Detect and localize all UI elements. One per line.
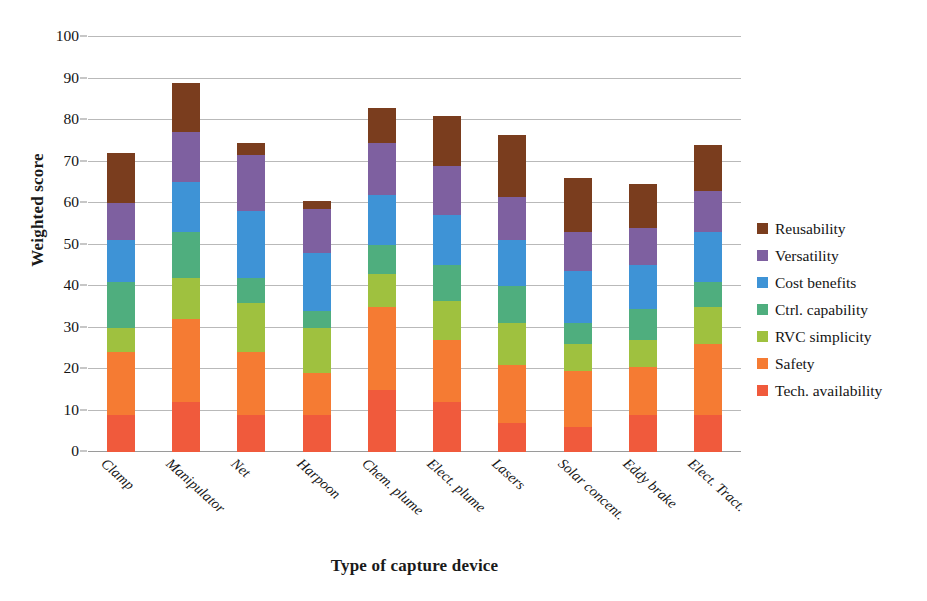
legend-item[interactable]: Reusability bbox=[757, 215, 922, 242]
bar-segment bbox=[433, 301, 461, 340]
bar-segment bbox=[303, 253, 331, 311]
x-axis-tick-label: Elect. plume bbox=[424, 455, 489, 516]
y-axis-tick-mark bbox=[80, 368, 87, 369]
plot-area: 0102030405060708090100 bbox=[88, 37, 741, 452]
bar-segment bbox=[498, 365, 526, 423]
bar-segment bbox=[694, 307, 722, 344]
bar-segment bbox=[107, 240, 135, 282]
bar-segment bbox=[564, 232, 592, 271]
bar-segment bbox=[107, 415, 135, 452]
bar-segment bbox=[237, 211, 265, 277]
bar-segment bbox=[172, 132, 200, 182]
bar-segment bbox=[498, 240, 526, 286]
bar-segment bbox=[237, 415, 265, 452]
y-axis-tick-label: 50 bbox=[64, 235, 80, 253]
bar-segment bbox=[564, 371, 592, 427]
y-axis-tick-mark bbox=[80, 202, 87, 203]
y-axis-tick-mark bbox=[80, 243, 87, 244]
y-axis-tick-label: 80 bbox=[64, 110, 80, 128]
bar-segment bbox=[629, 184, 657, 228]
bar-segment bbox=[498, 135, 526, 197]
legend-item[interactable]: Cost benefits bbox=[757, 269, 922, 296]
legend-label: RVC simplicity bbox=[775, 328, 872, 346]
legend-label: Safety bbox=[775, 355, 815, 373]
bar-segment bbox=[368, 390, 396, 452]
bar-segment bbox=[172, 232, 200, 278]
bar-segment bbox=[564, 427, 592, 452]
bar-segment bbox=[303, 201, 331, 209]
bars-layer bbox=[88, 37, 741, 452]
legend-label: Versatility bbox=[775, 247, 839, 265]
bar-segment bbox=[629, 367, 657, 415]
y-axis-tick-label: 0 bbox=[71, 442, 79, 460]
bar-stack bbox=[433, 116, 461, 452]
bar-segment bbox=[303, 311, 331, 328]
bar-segment bbox=[433, 265, 461, 300]
legend-swatch-icon bbox=[757, 385, 768, 396]
bar-stack bbox=[368, 108, 396, 452]
bar-segment bbox=[237, 352, 265, 414]
bar-segment bbox=[564, 271, 592, 323]
legend-swatch-icon bbox=[757, 277, 768, 288]
bar-segment bbox=[694, 232, 722, 282]
legend-item[interactable]: Tech. availability bbox=[757, 377, 922, 404]
bar-stack bbox=[564, 178, 592, 452]
legend-item[interactable]: Ctrl. capability bbox=[757, 296, 922, 323]
bar-segment bbox=[368, 245, 396, 274]
y-axis-tick-mark bbox=[80, 77, 87, 78]
x-axis-tick-label: Net bbox=[228, 455, 254, 481]
bar-segment bbox=[368, 307, 396, 390]
bar-segment bbox=[107, 203, 135, 240]
legend-label: Tech. availability bbox=[775, 382, 882, 400]
bar-stack bbox=[629, 184, 657, 452]
bar-segment bbox=[694, 191, 722, 233]
bar-segment bbox=[629, 265, 657, 309]
y-axis-tick-mark bbox=[80, 160, 87, 161]
bar-segment bbox=[303, 328, 331, 374]
x-axis-title: Type of capture device bbox=[88, 556, 741, 576]
bar-segment bbox=[498, 286, 526, 323]
bar-segment bbox=[629, 415, 657, 452]
bar-segment bbox=[368, 195, 396, 245]
x-axis-tick-labels: ClampManipulatorNetHarpoonChem. plumeEle… bbox=[88, 455, 741, 550]
y-axis-tick-label: 10 bbox=[64, 401, 80, 419]
bar-segment bbox=[237, 278, 265, 303]
bar-segment bbox=[433, 116, 461, 166]
legend-label: Reusability bbox=[775, 220, 846, 238]
bar-segment bbox=[303, 373, 331, 415]
y-axis-tick-label: 20 bbox=[64, 359, 80, 377]
legend-label: Ctrl. capability bbox=[775, 301, 868, 319]
x-axis-tick-label: Manipulator bbox=[163, 455, 229, 517]
bar-segment bbox=[564, 344, 592, 371]
bar-segment bbox=[694, 344, 722, 415]
y-axis-tick-label: 70 bbox=[64, 152, 80, 170]
legend-item[interactable]: RVC simplicity bbox=[757, 323, 922, 350]
bar-segment bbox=[107, 153, 135, 203]
bar-segment bbox=[303, 209, 331, 253]
y-axis-tick-label: 30 bbox=[64, 318, 80, 336]
bar-segment bbox=[433, 166, 461, 216]
bar-segment bbox=[107, 328, 135, 353]
x-axis-tick-label: Solar concent. bbox=[554, 455, 628, 524]
bar-stack bbox=[237, 143, 265, 452]
y-axis-tick-mark bbox=[80, 326, 87, 327]
bar-segment bbox=[498, 423, 526, 452]
legend-swatch-icon bbox=[757, 250, 768, 261]
x-axis-tick-label: Harpoon bbox=[293, 455, 343, 503]
bar-segment bbox=[433, 215, 461, 265]
legend-item[interactable]: Safety bbox=[757, 350, 922, 377]
y-axis-tick-mark bbox=[80, 409, 87, 410]
x-axis-tick-label: Clamp bbox=[97, 455, 137, 494]
legend-item[interactable]: Versatility bbox=[757, 242, 922, 269]
y-axis-tick-mark bbox=[80, 285, 87, 286]
bar-segment bbox=[629, 340, 657, 367]
y-axis-tick-mark bbox=[80, 119, 87, 120]
bar-segment bbox=[237, 143, 265, 155]
legend-swatch-icon bbox=[757, 331, 768, 342]
bar-segment bbox=[433, 340, 461, 402]
y-axis-tick-mark bbox=[80, 36, 87, 37]
bar-segment bbox=[172, 182, 200, 232]
bar-segment bbox=[237, 155, 265, 211]
bar-segment bbox=[498, 323, 526, 365]
legend-label: Cost benefits bbox=[775, 274, 856, 292]
